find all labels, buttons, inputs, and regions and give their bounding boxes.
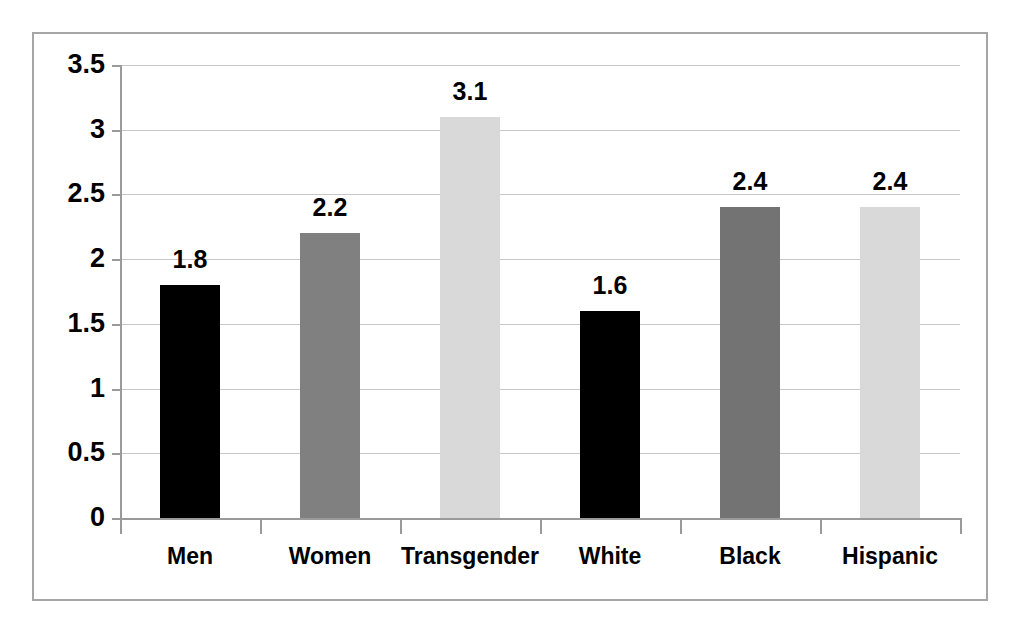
x-axis-separator-tick [120, 518, 122, 534]
bar-hispanic[interactable] [860, 207, 920, 518]
gridline-2 [120, 259, 960, 260]
gridline-1.5 [120, 324, 960, 325]
bar-value-label-black: 2.4 [700, 169, 800, 194]
y-tick-2 [112, 259, 120, 261]
gridline-3.5 [120, 65, 960, 66]
y-axis-tick-label: 3.5 [20, 51, 105, 78]
y-axis-tick-label: 1.5 [20, 310, 105, 337]
bar-value-label-women: 2.2 [280, 195, 380, 220]
gridline-2.5 [120, 194, 960, 195]
x-axis-separator-tick [400, 518, 402, 534]
x-axis-separator-tick [260, 518, 262, 534]
y-axis-line [120, 65, 122, 520]
y-tick-1 [112, 389, 120, 391]
bar-women[interactable] [300, 233, 360, 518]
bar-men[interactable] [160, 285, 220, 518]
bar-value-label-white: 1.6 [560, 273, 660, 298]
y-tick-3 [112, 130, 120, 132]
y-axis-tick-label: 0 [20, 504, 105, 531]
y-axis-tick-label: 2 [20, 245, 105, 272]
y-axis-tick-label: 0.5 [20, 439, 105, 466]
bar-value-label-men: 1.8 [140, 247, 240, 272]
x-axis-separator-tick [540, 518, 542, 534]
bar-black[interactable] [720, 207, 780, 518]
x-axis-separator-tick [960, 518, 962, 534]
x-axis-category-label-hispanic: Hispanic [800, 545, 980, 568]
bar-transgender[interactable] [440, 117, 500, 518]
y-axis-tick-label: 1 [20, 375, 105, 402]
y-axis-tick-label: 2.5 [20, 180, 105, 207]
bar-chart: 00.511.522.533.5 1.82.23.11.62.42.4 MenW… [0, 0, 1018, 637]
y-tick-1.5 [112, 324, 120, 326]
y-tick-2.5 [112, 194, 120, 196]
y-tick-0 [112, 518, 120, 520]
y-tick-0.5 [112, 453, 120, 455]
gridline-1 [120, 389, 960, 390]
bar-value-label-hispanic: 2.4 [840, 169, 940, 194]
y-tick-3.5 [112, 65, 120, 67]
y-axis-tick-label: 3 [20, 116, 105, 143]
bar-value-label-transgender: 3.1 [420, 79, 520, 104]
x-axis-separator-tick [820, 518, 822, 534]
gridline-0.5 [120, 453, 960, 454]
gridline-3 [120, 130, 960, 131]
x-axis-separator-tick [680, 518, 682, 534]
bar-white[interactable] [580, 311, 640, 518]
